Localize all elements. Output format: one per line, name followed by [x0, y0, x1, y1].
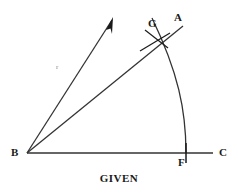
point-label-c: C: [219, 147, 227, 158]
figure-caption: GIVEN: [0, 172, 238, 184]
point-label-g: G: [148, 18, 157, 29]
point-label-a: A: [174, 12, 182, 23]
arc-from-f-through-g: [152, 18, 186, 153]
ray-length-mark: r: [56, 64, 58, 71]
ray-b-arrow: [27, 20, 112, 153]
ray-ba: [27, 26, 183, 153]
point-label-f: F: [178, 157, 185, 168]
ray-arrowhead-icon: [106, 17, 113, 34]
point-label-b: B: [11, 147, 18, 158]
geometry-figure: [0, 0, 238, 196]
